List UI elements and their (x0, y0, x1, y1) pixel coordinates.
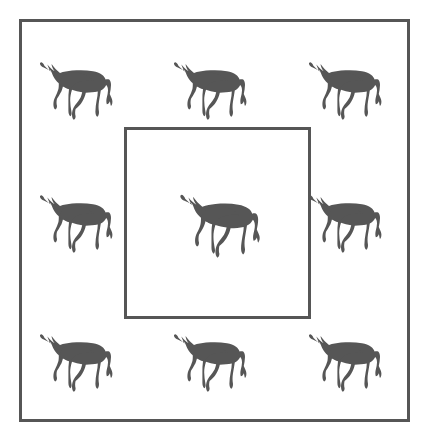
cow-silhouette-icon (305, 188, 389, 254)
cow-silhouette-icon (170, 55, 254, 121)
cow-silhouette-icon (36, 327, 120, 393)
cow-silhouette-icon (176, 187, 268, 259)
cow-silhouette-icon (170, 327, 254, 393)
cow-silhouette-icon (305, 327, 389, 393)
cow-silhouette-icon (305, 327, 389, 393)
cow-silhouette-icon (36, 55, 120, 121)
cow-silhouette-icon (36, 188, 120, 254)
cow-silhouette-icon (305, 188, 389, 254)
cow-silhouette-icon (305, 55, 389, 121)
cow-silhouette-icon (170, 55, 254, 121)
cow-silhouette-icon (36, 55, 120, 121)
cow-silhouette-icon (305, 55, 389, 121)
cow-silhouette-icon (36, 327, 120, 393)
cow-silhouette-icon (170, 327, 254, 393)
diagram-canvas (0, 0, 428, 436)
cow-silhouette-icon (176, 187, 268, 259)
cow-silhouette-icon (36, 188, 120, 254)
